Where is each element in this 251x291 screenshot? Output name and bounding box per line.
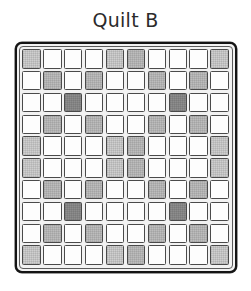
quilt-patch-fill bbox=[22, 49, 40, 68]
quilt-patch bbox=[188, 157, 209, 179]
quilt-patch-fill bbox=[127, 202, 145, 221]
quilt-patch bbox=[188, 113, 209, 135]
quilt-patch bbox=[42, 244, 63, 266]
quilt-patch bbox=[188, 48, 209, 70]
quilt-patch bbox=[146, 135, 167, 157]
quilt-patch bbox=[146, 92, 167, 114]
quilt-patch-fill bbox=[43, 224, 61, 243]
quilt-patch-fill bbox=[127, 158, 145, 177]
quilt-patch bbox=[167, 222, 188, 244]
quilt-patch-fill bbox=[43, 202, 61, 221]
quilt-patch-fill bbox=[22, 180, 40, 199]
quilt-patch bbox=[42, 201, 63, 223]
quilt-patch-fill bbox=[106, 136, 124, 155]
quilt-patch-fill bbox=[22, 93, 40, 112]
quilt-patch bbox=[146, 157, 167, 179]
quilt-patch-fill bbox=[189, 158, 207, 177]
quilt-patch bbox=[146, 179, 167, 201]
quilt-patch bbox=[84, 179, 105, 201]
quilt-patch bbox=[125, 222, 146, 244]
quilt-patch bbox=[146, 48, 167, 70]
quilt-patch-fill bbox=[85, 93, 103, 112]
quilt-patch-fill bbox=[189, 115, 207, 134]
quilt-patch-fill bbox=[169, 158, 187, 177]
quilt-patch bbox=[105, 222, 126, 244]
quilt-patch-fill bbox=[127, 180, 145, 199]
quilt-patch-fill bbox=[43, 136, 61, 155]
quilt-patch bbox=[21, 201, 42, 223]
quilt-patch bbox=[188, 222, 209, 244]
quilt-patch bbox=[125, 48, 146, 70]
quilt-patch bbox=[188, 135, 209, 157]
quilt-patch-fill bbox=[189, 245, 207, 264]
quilt-patch-fill bbox=[85, 136, 103, 155]
quilt-patch-fill bbox=[148, 245, 166, 264]
quilt-patch bbox=[209, 179, 230, 201]
quilt-patch-fill bbox=[127, 93, 145, 112]
quilt-patch bbox=[167, 113, 188, 135]
quilt-patch bbox=[209, 135, 230, 157]
quilt-patch-fill bbox=[64, 115, 82, 134]
quilt-patch bbox=[42, 157, 63, 179]
quilt-patch bbox=[84, 113, 105, 135]
quilt-patch-fill bbox=[22, 115, 40, 134]
quilt-patch-fill bbox=[64, 136, 82, 155]
quilt-patch-fill bbox=[85, 202, 103, 221]
quilt-patch-fill bbox=[148, 180, 166, 199]
quilt-patch bbox=[21, 179, 42, 201]
quilt-patch bbox=[84, 201, 105, 223]
quilt-patch bbox=[125, 113, 146, 135]
quilt-patch-fill bbox=[64, 224, 82, 243]
quilt-patch-fill bbox=[210, 71, 228, 90]
quilt-patch bbox=[209, 244, 230, 266]
quilt-patch-fill bbox=[127, 49, 145, 68]
quilt-patch-fill bbox=[22, 224, 40, 243]
quilt-patch-fill bbox=[106, 49, 124, 68]
quilt-patch bbox=[167, 48, 188, 70]
quilt-patch-fill bbox=[85, 158, 103, 177]
quilt-patch bbox=[84, 244, 105, 266]
quilt-patch bbox=[84, 70, 105, 92]
quilt-patch-fill bbox=[210, 93, 228, 112]
quilt-patch bbox=[105, 201, 126, 223]
quilt-patch bbox=[209, 157, 230, 179]
quilt-patch bbox=[63, 201, 84, 223]
quilt-patch bbox=[105, 157, 126, 179]
quilt-patch-fill bbox=[148, 71, 166, 90]
quilt-patch-fill bbox=[106, 71, 124, 90]
quilt-patch bbox=[209, 222, 230, 244]
quilt-patch-fill bbox=[85, 180, 103, 199]
quilt-patch bbox=[21, 244, 42, 266]
quilt-patch-fill bbox=[210, 115, 228, 134]
quilt-patch bbox=[209, 201, 230, 223]
quilt-patch-fill bbox=[210, 49, 228, 68]
quilt-patch bbox=[21, 222, 42, 244]
quilt-patch-fill bbox=[64, 202, 82, 221]
quilt-patch bbox=[42, 135, 63, 157]
quilt-grid bbox=[21, 48, 230, 266]
quilt-patch bbox=[63, 222, 84, 244]
quilt-patch bbox=[188, 244, 209, 266]
quilt-patch bbox=[125, 244, 146, 266]
quilt-patch bbox=[167, 201, 188, 223]
quilt-patch-fill bbox=[85, 115, 103, 134]
quilt-patch bbox=[42, 92, 63, 114]
quilt-patch bbox=[21, 92, 42, 114]
quilt-patch-fill bbox=[64, 49, 82, 68]
quilt-patch bbox=[84, 222, 105, 244]
quilt-patch-fill bbox=[64, 93, 82, 112]
quilt-patch bbox=[209, 48, 230, 70]
quilt-patch-fill bbox=[148, 93, 166, 112]
quilt-patch-fill bbox=[189, 93, 207, 112]
quilt-patch-fill bbox=[22, 202, 40, 221]
quilt-patch-fill bbox=[22, 136, 40, 155]
quilt-patch-fill bbox=[85, 245, 103, 264]
quilt-patch-fill bbox=[85, 49, 103, 68]
quilt-patch-fill bbox=[43, 115, 61, 134]
quilt-patch bbox=[21, 157, 42, 179]
quilt-patch bbox=[21, 70, 42, 92]
quilt-patch-fill bbox=[210, 158, 228, 177]
quilt-patch-fill bbox=[189, 71, 207, 90]
quilt-patch bbox=[125, 92, 146, 114]
quilt-patch-fill bbox=[127, 136, 145, 155]
